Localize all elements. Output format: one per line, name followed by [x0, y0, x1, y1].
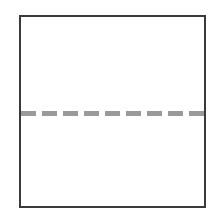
square-frame	[19, 15, 206, 208]
dash-segment	[63, 111, 78, 116]
dash-segment	[21, 111, 36, 116]
dash-segment	[189, 111, 204, 116]
dash-segment	[84, 111, 99, 116]
dash-segment	[168, 111, 183, 116]
dash-segment	[105, 111, 120, 116]
dash-segment	[42, 111, 57, 116]
dashed-divider-line	[21, 111, 204, 116]
dash-segment	[147, 111, 162, 116]
dash-segment	[126, 111, 141, 116]
